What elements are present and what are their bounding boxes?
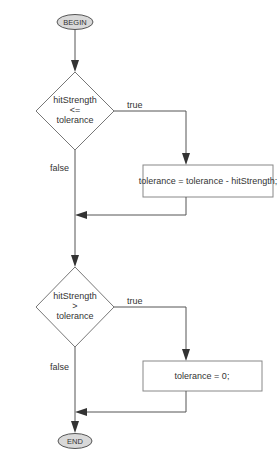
decision2-line1: hitStrength (53, 291, 97, 301)
end-label: END (67, 437, 83, 446)
decision2-diamond: hitStrength > tolerance (36, 267, 114, 347)
decision2-false-label: false (50, 362, 69, 372)
decision1-true-label: true (127, 100, 143, 110)
end-terminal: END (58, 434, 92, 449)
decision1-line2: <= (70, 105, 81, 115)
process2-box: tolerance = 0; (143, 361, 262, 391)
arrow-icon (75, 211, 87, 219)
begin-label: BEGIN (63, 18, 86, 27)
connector-process2-merge (87, 391, 186, 412)
connector-process1-merge (87, 197, 186, 215)
process1-label: tolerance = tolerance - hitStrength; (139, 176, 277, 186)
decision1-line1: hitStrength (53, 95, 97, 105)
process2-label: tolerance = 0; (175, 371, 230, 381)
arrow-icon (71, 421, 79, 433)
flowchart: BEGIN hitStrength <= tolerance true tole… (0, 0, 278, 470)
arrow-icon (75, 408, 87, 416)
arrow-icon (71, 60, 79, 72)
decision2-line2: > (72, 301, 77, 311)
decision1-diamond: hitStrength <= tolerance (36, 72, 114, 150)
arrow-icon (182, 153, 190, 165)
arrow-icon (71, 255, 79, 267)
decision2-true-label: true (127, 296, 143, 306)
begin-terminal: BEGIN (57, 15, 93, 30)
arrow-icon (182, 349, 190, 361)
decision2-line3: tolerance (56, 311, 93, 321)
decision1-line3: tolerance (56, 115, 93, 125)
connector-decision1-true (114, 111, 186, 153)
connector-decision2-true (114, 307, 186, 349)
process1-box: tolerance = tolerance - hitStrength; (139, 165, 277, 197)
decision1-false-label: false (50, 163, 69, 173)
